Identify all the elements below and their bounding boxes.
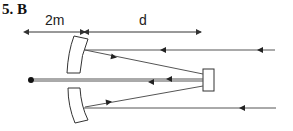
- point-source: [28, 77, 34, 83]
- upper-curved-mirror: [67, 36, 88, 73]
- reflected-ray-upper: [85, 50, 203, 74]
- plane-mirror: [203, 69, 214, 91]
- optics-diagram: [0, 0, 293, 131]
- lower-curved-mirror: [68, 88, 88, 123]
- reflected-ray-lower: [85, 86, 203, 107]
